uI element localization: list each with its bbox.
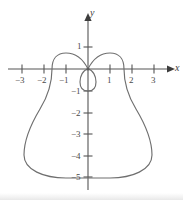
x-axis-arrow-icon xyxy=(167,65,175,72)
x-tick-label-2: 2 xyxy=(129,76,134,85)
y-tick-label--1: −1 xyxy=(71,87,81,96)
y-tick-label--3: −3 xyxy=(71,130,81,139)
x-tick-label-1: 1 xyxy=(107,76,112,85)
y-tick-label--5: −5 xyxy=(71,173,81,182)
polar-curve-figure: −3 −2 −1 1 2 3 1 −1 −2 −3 −4 −5 y x xyxy=(0,0,183,200)
x-tick-label--1: −1 xyxy=(59,76,69,85)
page-bottom-shading xyxy=(0,193,183,200)
x-axis-label: x xyxy=(175,63,179,73)
plot-canvas xyxy=(0,0,183,200)
y-tick-label--4: −4 xyxy=(71,152,81,161)
y-tick-label--2: −2 xyxy=(71,109,81,118)
x-tick-label-3: 3 xyxy=(151,76,156,85)
y-tick-label-1: 1 xyxy=(77,42,82,51)
y-axis-label: y xyxy=(90,8,94,18)
x-tick-label--2: −2 xyxy=(37,76,47,85)
origin-cusp-point xyxy=(87,68,90,71)
x-tick-label--3: −3 xyxy=(15,76,25,85)
